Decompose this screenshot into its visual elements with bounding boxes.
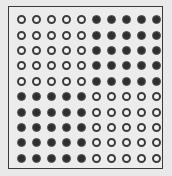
hollow-circle-icon	[152, 108, 161, 117]
filled-circle-icon	[17, 108, 26, 117]
filled-circle-icon	[47, 138, 56, 147]
hollow-circle-icon	[92, 123, 101, 132]
hollow-circle-icon	[77, 77, 86, 86]
filled-circle-icon	[152, 77, 161, 86]
filled-circle-icon	[17, 123, 26, 132]
hollow-circle-icon	[122, 108, 131, 117]
filled-circle-icon	[77, 138, 86, 147]
grid-cell	[104, 58, 119, 73]
hollow-circle-icon	[137, 138, 146, 147]
grid-cell	[89, 89, 104, 104]
filled-circle-icon	[32, 123, 41, 132]
grid-cell	[14, 151, 29, 166]
grid-cell	[134, 135, 149, 150]
hollow-circle-icon	[47, 46, 56, 55]
grid-cell	[44, 104, 59, 119]
grid-cell	[74, 104, 89, 119]
grid-cell	[149, 89, 164, 104]
hollow-circle-icon	[137, 123, 146, 132]
dot-grid	[14, 12, 164, 166]
grid-cell	[14, 74, 29, 89]
grid-cell	[89, 74, 104, 89]
grid-cell	[59, 27, 74, 42]
hollow-circle-icon	[152, 92, 161, 101]
grid-cell	[14, 104, 29, 119]
filled-circle-icon	[152, 15, 161, 24]
hollow-circle-icon	[77, 46, 86, 55]
hollow-circle-icon	[77, 31, 86, 40]
grid-cell	[119, 104, 134, 119]
filled-circle-icon	[47, 123, 56, 132]
filled-circle-icon	[62, 108, 71, 117]
grid-cell	[59, 12, 74, 27]
hollow-circle-icon	[32, 31, 41, 40]
hollow-circle-icon	[17, 77, 26, 86]
grid-cell	[14, 120, 29, 135]
hollow-circle-icon	[62, 61, 71, 70]
filled-circle-icon	[62, 123, 71, 132]
hollow-circle-icon	[92, 138, 101, 147]
filled-circle-icon	[107, 31, 116, 40]
grid-cell	[104, 120, 119, 135]
grid-cell	[44, 74, 59, 89]
filled-circle-icon	[137, 46, 146, 55]
grid-cell	[149, 12, 164, 27]
hollow-circle-icon	[17, 31, 26, 40]
grid-cell	[134, 74, 149, 89]
grid-cell	[14, 43, 29, 58]
grid-cell	[104, 151, 119, 166]
filled-circle-icon	[17, 154, 26, 163]
hollow-circle-icon	[107, 123, 116, 132]
hollow-circle-icon	[137, 108, 146, 117]
grid-cell	[89, 43, 104, 58]
hollow-circle-icon	[122, 154, 131, 163]
filled-circle-icon	[17, 92, 26, 101]
hollow-circle-icon	[32, 61, 41, 70]
grid-cell	[149, 27, 164, 42]
grid-cell	[29, 89, 44, 104]
filled-circle-icon	[77, 123, 86, 132]
filled-circle-icon	[122, 61, 131, 70]
filled-circle-icon	[32, 92, 41, 101]
grid-cell	[134, 120, 149, 135]
hollow-circle-icon	[92, 108, 101, 117]
grid-cell	[44, 58, 59, 73]
grid-cell	[104, 89, 119, 104]
filled-circle-icon	[137, 77, 146, 86]
grid-cell	[119, 151, 134, 166]
grid-cell	[29, 151, 44, 166]
grid-cell	[74, 58, 89, 73]
grid-cell	[149, 43, 164, 58]
grid-cell	[74, 74, 89, 89]
grid-cell	[134, 89, 149, 104]
grid-cell	[44, 135, 59, 150]
filled-circle-icon	[77, 154, 86, 163]
hollow-circle-icon	[137, 92, 146, 101]
filled-circle-icon	[92, 31, 101, 40]
grid-cell	[119, 43, 134, 58]
grid-cell	[14, 58, 29, 73]
grid-cell	[149, 74, 164, 89]
grid-cell	[89, 135, 104, 150]
grid-cell	[149, 151, 164, 166]
grid-cell	[134, 58, 149, 73]
grid-cell	[119, 120, 134, 135]
hollow-circle-icon	[47, 61, 56, 70]
filled-circle-icon	[92, 77, 101, 86]
filled-circle-icon	[62, 138, 71, 147]
filled-circle-icon	[152, 61, 161, 70]
hollow-circle-icon	[107, 108, 116, 117]
filled-circle-icon	[137, 61, 146, 70]
filled-circle-icon	[32, 154, 41, 163]
filled-circle-icon	[47, 108, 56, 117]
grid-cell	[74, 120, 89, 135]
grid-cell	[29, 104, 44, 119]
grid-cell	[59, 120, 74, 135]
filled-circle-icon	[62, 154, 71, 163]
grid-cell	[74, 89, 89, 104]
filled-circle-icon	[152, 31, 161, 40]
grid-cell	[104, 43, 119, 58]
hollow-circle-icon	[32, 77, 41, 86]
grid-cell	[44, 12, 59, 27]
grid-cell	[119, 135, 134, 150]
